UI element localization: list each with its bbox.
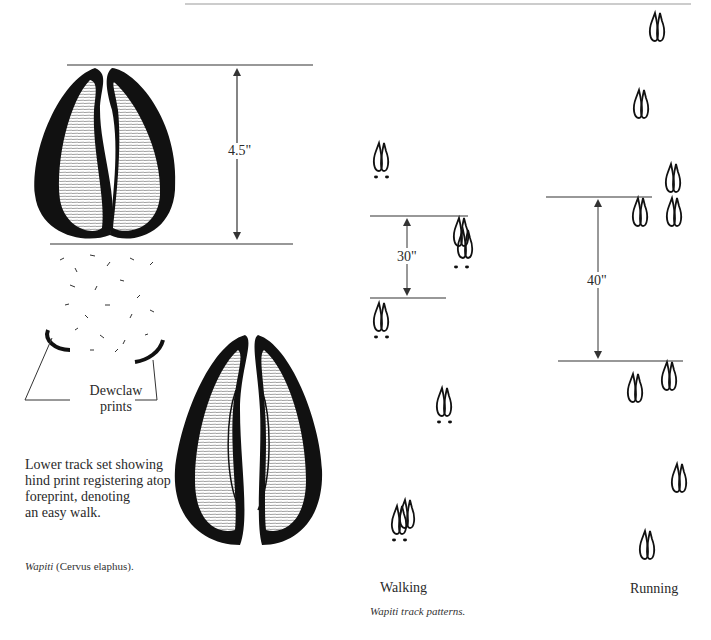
dewclaw-label-line2: prints [78,399,154,415]
running-label: Running [630,581,678,597]
walking-label: Walking [380,580,427,596]
wapiti-track-illustration [0,0,711,640]
description-line: Lower track set showing [25,457,171,473]
track-patterns-caption: Wapiti track patterns. [370,605,465,617]
description-line: foreprint, denoting [25,489,171,505]
walking-stride-label: 30" [397,249,417,265]
caption-species-latin: (Cervus elaphus). [53,560,133,572]
figure-caption: Wapiti (Cervus elaphus). [25,560,134,572]
hoof-print-upper [34,68,175,239]
running-tracks [628,13,686,559]
description-line: an easy walk. [25,505,171,521]
dewclaw-label: Dewclaw prints [78,383,154,415]
hoof-print-lower [175,335,322,545]
dirt-speckles [60,255,154,352]
caption-species-common: Wapiti [25,560,53,572]
running-stride-label: 40" [587,273,607,289]
walking-tracks [374,143,472,541]
dewclaw-label-line1: Dewclaw [78,383,154,399]
hoof-length-label: 4.5" [228,143,251,159]
description-line: hind print registering atop [25,473,171,489]
track-description: Lower track set showing hind print regis… [25,457,171,521]
